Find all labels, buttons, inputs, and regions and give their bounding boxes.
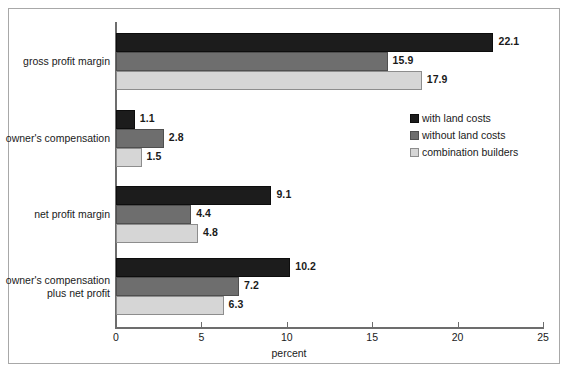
bar[interactable]: [116, 277, 239, 296]
x-axis-tick-label: 20: [452, 331, 464, 343]
bar[interactable]: [116, 129, 164, 148]
bar-value-label: 22.1: [498, 35, 519, 47]
x-axis-tick-label: 25: [537, 331, 549, 343]
x-axis-tick-label: 0: [113, 331, 119, 343]
bar-value-label: 2.8: [169, 131, 184, 143]
x-axis-tick-mark: [372, 322, 373, 328]
x-axis-tick-mark: [287, 322, 288, 328]
category-label-net-profit-margin: net profit margin: [2, 208, 110, 221]
legend-item[interactable]: combination builders: [410, 144, 518, 160]
bar-value-label: 4.8: [203, 226, 218, 238]
bar[interactable]: [116, 205, 191, 224]
category-label-owners-compensation: owner's compensation: [2, 132, 110, 145]
x-axis-tick-label: 15: [366, 331, 378, 343]
x-axis-tick-mark: [543, 322, 544, 328]
bar[interactable]: [116, 71, 422, 90]
bar-value-label: 7.2: [244, 279, 259, 291]
x-axis-line: [115, 327, 544, 329]
bar-value-label: 17.9: [427, 73, 448, 85]
legend-item-label: with land costs: [422, 112, 491, 124]
x-axis-title-text: percent: [271, 347, 306, 359]
category-label-owners-compensation-plus-net-profit: owner's compensation plus net profit: [2, 274, 110, 300]
x-axis-title: percent: [0, 347, 570, 359]
legend-item-label: without land costs: [422, 129, 505, 141]
x-axis-tick-label: 10: [281, 331, 293, 343]
bar-value-label: 9.1: [276, 188, 291, 200]
bar[interactable]: [116, 148, 142, 167]
legend-swatch-icon: [410, 148, 419, 157]
x-axis-tick-mark: [458, 322, 459, 328]
bar-chart-plot-area: gross profit margin owner's compensation…: [0, 0, 570, 382]
bar[interactable]: [116, 186, 271, 205]
bar[interactable]: [116, 296, 224, 315]
bar-value-label: 4.4: [196, 207, 211, 219]
bar-value-label: 1.1: [140, 112, 155, 124]
legend-swatch-icon: [410, 131, 419, 140]
legend-item[interactable]: without land costs: [410, 127, 518, 143]
bar[interactable]: [116, 52, 388, 71]
legend-item[interactable]: with land costs: [410, 110, 518, 126]
bar-value-label: 10.2: [295, 260, 316, 272]
chart-legend: with land costswithout land costscombina…: [410, 110, 518, 161]
bar[interactable]: [116, 33, 493, 52]
x-axis-tick-mark: [201, 322, 202, 328]
bar[interactable]: [116, 110, 135, 129]
legend-swatch-icon: [410, 114, 419, 123]
x-axis-tick-mark: [116, 322, 117, 328]
bar[interactable]: [116, 224, 198, 243]
bar-value-label: 15.9: [393, 54, 414, 66]
bar-value-label: 6.3: [229, 298, 244, 310]
bar-value-label: 1.5: [147, 150, 162, 162]
bar[interactable]: [116, 258, 290, 277]
legend-item-label: combination builders: [422, 146, 518, 158]
category-label-gross-profit-margin: gross profit margin: [2, 55, 110, 68]
x-axis-tick-label: 5: [198, 331, 204, 343]
